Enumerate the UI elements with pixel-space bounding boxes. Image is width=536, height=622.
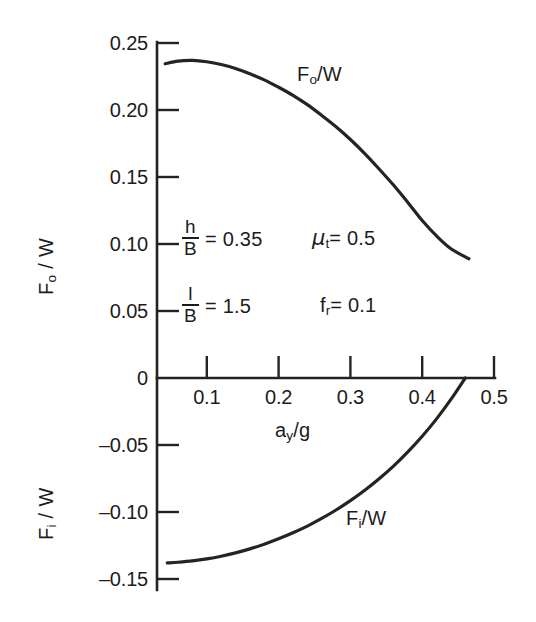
fraction-numerator: h bbox=[182, 217, 199, 237]
equals-sign: = bbox=[330, 294, 342, 316]
annotation-f-r: fr= 0.1 bbox=[320, 295, 376, 318]
y-tick-label: 0.20 bbox=[40, 100, 148, 120]
mu-symbol: μ bbox=[312, 226, 326, 250]
y-axis-title-lower-base: F bbox=[35, 527, 57, 540]
y-tick-label: 0 bbox=[40, 368, 148, 388]
curve-label-fi: Fi/W bbox=[346, 508, 386, 531]
curve-label-fo-sub: o bbox=[309, 72, 317, 87]
x-tick-label: 0.4 bbox=[387, 387, 457, 407]
y-axis-title-upper-tail: / W bbox=[35, 238, 57, 275]
annotation-h-over-b: h B = 0.35 bbox=[182, 218, 263, 260]
x-tick-label: 0.3 bbox=[315, 387, 385, 407]
curve-label-fo-tail: /W bbox=[317, 63, 342, 85]
y-axis-title-upper-base: F bbox=[35, 282, 57, 295]
chart-figure: 0.250.200.150.100.050–0.05–0.10–0.15 0.1… bbox=[0, 0, 536, 622]
y-tick-label: 0.25 bbox=[40, 33, 148, 53]
fraction-numerator: l bbox=[182, 284, 199, 304]
annotation-mu-t: μt= 0.5 bbox=[312, 228, 375, 251]
x-axis-title: ay/g bbox=[275, 420, 310, 443]
y-axis-title-lower-sub: i bbox=[44, 524, 59, 527]
annotation-value: 0.5 bbox=[347, 227, 375, 249]
fraction-denominator: B bbox=[182, 237, 199, 259]
x-axis-ticks bbox=[207, 356, 494, 378]
x-tick-label: 0.2 bbox=[244, 387, 314, 407]
fraction-denominator: B bbox=[182, 304, 199, 326]
y-tick-label: –0.15 bbox=[40, 569, 148, 589]
equals-sign: = bbox=[205, 296, 217, 316]
y-axis-title-lower-tail: / W bbox=[35, 487, 57, 524]
curve-label-fo-base: F bbox=[297, 63, 309, 85]
curve-label-fi-tail: /W bbox=[361, 507, 386, 529]
fraction-l-over-b: l B bbox=[182, 284, 199, 326]
y-axis-title-lower: Fi / W bbox=[36, 487, 59, 540]
x-tick-label: 0.5 bbox=[459, 387, 529, 407]
annotation-value: 1.5 bbox=[223, 296, 251, 316]
equals-sign: = bbox=[205, 229, 217, 249]
y-tick-label: 0.05 bbox=[40, 301, 148, 321]
x-axis-title-tail: /g bbox=[293, 419, 310, 441]
x-axis-title-base: a bbox=[275, 419, 286, 441]
fraction-h-over-b: h B bbox=[182, 217, 199, 259]
annotation-l-over-b: l B = 1.5 bbox=[182, 285, 251, 327]
y-tick-label: 0.15 bbox=[40, 167, 148, 187]
y-axis-ticks bbox=[157, 43, 179, 579]
annotation-value: 0.35 bbox=[223, 229, 263, 249]
y-axis-title-upper-sub: o bbox=[44, 275, 59, 283]
curve-label-fi-base: F bbox=[346, 507, 358, 529]
annotation-value: 0.1 bbox=[348, 294, 376, 316]
equals-sign: = bbox=[329, 227, 341, 249]
y-axis-title-upper: Fo / W bbox=[36, 238, 59, 295]
curve-label-fo: Fo/W bbox=[297, 64, 342, 87]
y-tick-label: –0.05 bbox=[40, 435, 148, 455]
x-tick-label: 0.1 bbox=[172, 387, 242, 407]
